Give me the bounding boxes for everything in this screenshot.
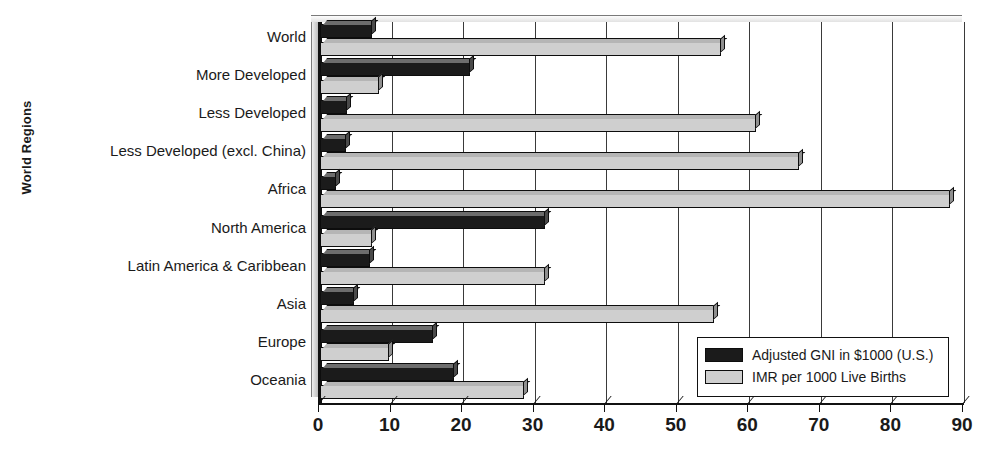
category-label: Less Developed — [0, 105, 306, 120]
bar-group — [320, 251, 964, 290]
x-tick-label: 50 — [665, 414, 686, 436]
x-tick-label: 70 — [808, 414, 829, 436]
bar-group — [320, 289, 964, 328]
x-tick — [318, 403, 319, 412]
x-tick — [676, 403, 677, 412]
x-tick — [604, 403, 605, 412]
category-label: Latin America & Caribbean — [0, 258, 306, 273]
category-label: Asia — [0, 296, 306, 311]
bar — [320, 118, 756, 132]
bar — [320, 24, 372, 38]
bar — [320, 367, 454, 381]
bar — [320, 156, 799, 170]
x-tick-label: 10 — [379, 414, 400, 436]
x-tick — [747, 403, 748, 412]
x-tick — [962, 403, 963, 412]
bar — [320, 291, 354, 305]
category-label: Europe — [0, 334, 306, 349]
x-tick — [390, 403, 391, 412]
bar-group — [320, 98, 964, 137]
x-tick-label: 30 — [522, 414, 543, 436]
bar — [320, 176, 336, 190]
category-label: Africa — [0, 181, 306, 196]
bar — [320, 385, 524, 399]
x-tick-label: 60 — [737, 414, 758, 436]
category-label: More Developed — [0, 67, 306, 82]
category-label: Less Developed (excl. China) — [0, 143, 306, 158]
bar-group — [320, 213, 964, 252]
x-tick-label: 80 — [880, 414, 901, 436]
bar — [320, 138, 346, 152]
bar-group — [320, 174, 964, 213]
bar — [320, 233, 372, 247]
bar-group — [320, 22, 964, 61]
y-axis-category-labels: WorldMore DevelopedLess DevelopedLess De… — [0, 18, 310, 403]
category-label: North America — [0, 220, 306, 235]
bar — [320, 309, 714, 323]
bar — [320, 253, 370, 267]
legend-swatch — [705, 348, 743, 362]
bar — [320, 100, 347, 114]
legend-label: Adjusted GNI in $1000 (U.S.) — [752, 348, 933, 362]
gridline-90 — [964, 22, 965, 403]
bar — [320, 62, 470, 76]
bar — [320, 271, 545, 285]
bar — [320, 215, 545, 229]
x-tick-label: 40 — [594, 414, 615, 436]
x-tick-label: 20 — [451, 414, 472, 436]
x-tick-label: 90 — [951, 414, 972, 436]
x-tick — [819, 403, 820, 412]
bar — [320, 194, 950, 208]
legend-label: IMR per 1000 Live Births — [752, 370, 906, 384]
legend-item: Adjusted GNI in $1000 (U.S.) — [705, 344, 941, 366]
legend-swatch — [705, 370, 743, 384]
legend-item: IMR per 1000 Live Births — [705, 366, 941, 388]
bar — [320, 80, 379, 94]
x-tick-label: 0 — [313, 414, 324, 436]
bar — [320, 329, 433, 343]
x-tick — [461, 403, 462, 412]
category-label: World — [0, 29, 306, 44]
legend: Adjusted GNI in $1000 (U.S.)IMR per 1000… — [697, 337, 949, 397]
bar-group — [320, 60, 964, 99]
x-axis-tick-labels: 0102030405060708090 — [318, 414, 962, 442]
bar — [320, 347, 389, 361]
bar — [320, 42, 721, 56]
bar-group — [320, 136, 964, 175]
bar-chart: World Regions WorldMore DevelopedLess De… — [0, 0, 984, 462]
x-tick — [533, 403, 534, 412]
x-tick — [890, 403, 891, 412]
category-label: Oceania — [0, 372, 306, 387]
